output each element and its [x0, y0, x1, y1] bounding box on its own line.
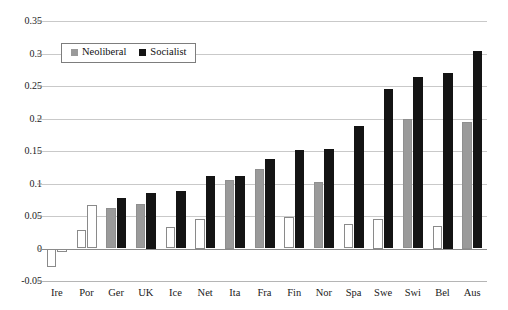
- legend-swatch-neoliberal-icon: [71, 49, 78, 56]
- bar-socialist-bel: [443, 73, 453, 249]
- x-axis-tick-label-swi: Swi: [405, 288, 421, 299]
- bar-neoliberal-por: [77, 230, 87, 248]
- bar-neoliberal-ita: [225, 180, 235, 248]
- bar-socialist-ice: [176, 191, 186, 249]
- bar-socialist-ger: [117, 198, 127, 249]
- y-axis: 0.350.30.250.20.150.10.050-0.05: [0, 0, 42, 310]
- bar-socialist-fra: [265, 159, 275, 248]
- x-axis-tick-label-net: Net: [198, 288, 213, 299]
- legend-entry-socialist: Socialist: [139, 47, 186, 58]
- bar-socialist-fin: [295, 150, 305, 249]
- x-axis-tick-label-ger: Ger: [108, 288, 124, 299]
- zero-line: [42, 249, 487, 250]
- bar-chart: 0.350.30.250.20.150.10.050-0.05 IrePorGe…: [0, 0, 508, 310]
- legend-swatch-socialist-icon: [139, 49, 146, 56]
- chart-legend: NeoliberalSocialist: [61, 43, 196, 63]
- x-axis-tick-label-fin: Fin: [287, 288, 301, 299]
- bar-neoliberal-aus: [462, 122, 472, 249]
- bar-neoliberal-swe: [373, 219, 383, 248]
- x-axis-tick-label-ice: Ice: [169, 288, 182, 299]
- bar-socialist-swi: [413, 77, 423, 249]
- bar-neoliberal-ire: [47, 249, 57, 267]
- bar-socialist-swe: [384, 89, 394, 249]
- bar-neoliberal-fra: [255, 169, 265, 248]
- bar-neoliberal-ger: [106, 208, 116, 248]
- bar-neoliberal-net: [195, 219, 205, 248]
- gridline: [42, 281, 487, 282]
- bar-neoliberal-bel: [433, 226, 443, 249]
- x-axis-tick-label-uk: UK: [138, 288, 153, 299]
- gridline: [42, 21, 487, 22]
- bar-neoliberal-uk: [136, 204, 146, 248]
- legend-label: Neoliberal: [82, 47, 126, 58]
- bar-socialist-ita: [235, 176, 245, 248]
- bar-neoliberal-spa: [344, 224, 354, 248]
- x-axis-tick-label-aus: Aus: [464, 288, 481, 299]
- bar-socialist-nor: [324, 149, 334, 248]
- legend-entry-neoliberal: Neoliberal: [71, 47, 126, 58]
- x-axis-tick-label-fra: Fra: [258, 288, 272, 299]
- legend-label: Socialist: [150, 47, 186, 58]
- bar-socialist-por: [87, 205, 97, 249]
- x-axis-tick-label-ire: Ire: [51, 288, 63, 299]
- bar-neoliberal-ice: [166, 227, 176, 248]
- bar-socialist-ire: [57, 249, 67, 252]
- x-axis-tick-label-bel: Bel: [435, 288, 450, 299]
- bar-neoliberal-nor: [314, 182, 324, 248]
- x-axis-tick-label-nor: Nor: [316, 288, 332, 299]
- bar-socialist-spa: [354, 126, 364, 248]
- x-axis-tick-label-ita: Ita: [229, 288, 240, 299]
- bar-neoliberal-fin: [284, 217, 294, 249]
- bar-socialist-net: [206, 176, 216, 248]
- bar-socialist-aus: [473, 51, 483, 249]
- x-axis-tick-label-swe: Swe: [374, 288, 392, 299]
- bar-socialist-uk: [146, 193, 156, 248]
- x-axis-tick-label-por: Por: [79, 288, 94, 299]
- bar-neoliberal-swi: [403, 119, 413, 248]
- x-axis-tick-label-spa: Spa: [346, 288, 362, 299]
